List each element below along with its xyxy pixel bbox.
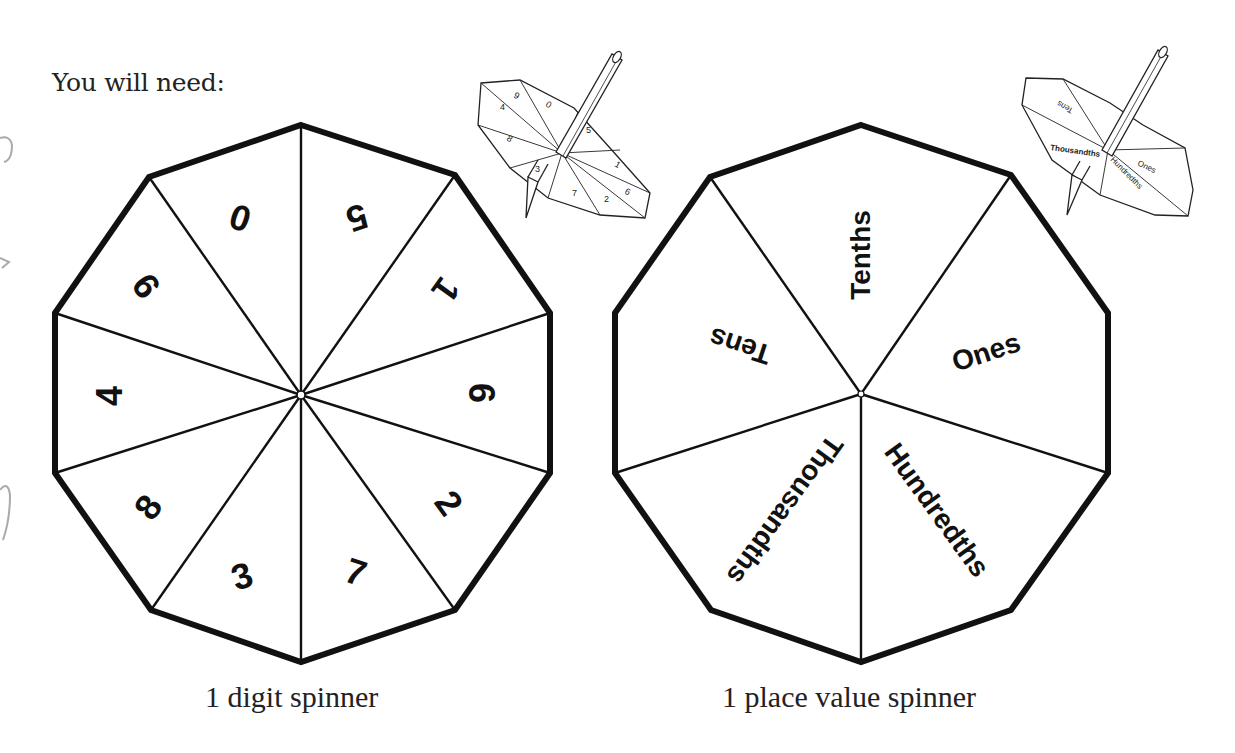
svg-text:7: 7 [572, 188, 577, 198]
place-value-spinner-caption: 1 place value spinner [722, 680, 976, 714]
digit-spinner-caption: 1 digit spinner [205, 680, 378, 714]
svg-text:2: 2 [604, 194, 609, 204]
svg-text:5: 5 [586, 125, 591, 135]
spinners-canvas: 0 5 1 6 2 7 3 8 4 9 Tenths Ones Hundredt… [0, 0, 1235, 753]
digit-spinner: 0 5 1 6 2 7 3 8 4 9 [55, 125, 550, 662]
svg-text:3: 3 [535, 164, 540, 174]
place-value-spinner: Tenths Ones Hundredths Thousandths Tens [615, 125, 1108, 662]
place-value-spinner-illustration: Tens Thousandths Ones Hundredths [1022, 45, 1193, 216]
digit-label-4: 4 [89, 386, 130, 406]
digit-label-6: 6 [461, 383, 502, 403]
digit-spinner-illustration: 9 0 4 8 3 5 1 6 2 7 [478, 50, 650, 218]
place-value-spinner-center-hole [858, 391, 864, 397]
place-label-tenths: Tenths [845, 210, 876, 300]
digit-spinner-center-hole [297, 391, 305, 399]
svg-text:4: 4 [500, 102, 505, 112]
